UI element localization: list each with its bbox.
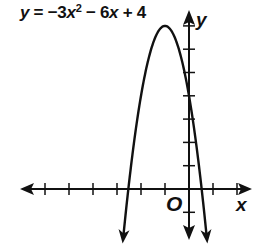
y-axis-label: y bbox=[196, 9, 207, 31]
equation-term3: + 4 bbox=[123, 3, 146, 22]
equation-term2-coef: − 6 bbox=[86, 3, 109, 22]
parabola-curve bbox=[123, 26, 206, 236]
equation-term2-var: x bbox=[109, 3, 118, 22]
equation-lhs: y bbox=[20, 3, 29, 22]
parabola-graph bbox=[0, 0, 255, 252]
equation-term1-var: x bbox=[66, 3, 75, 22]
origin-label: O bbox=[166, 192, 182, 216]
x-axis-label: x bbox=[236, 194, 247, 216]
equation-term1-exp: 2 bbox=[76, 2, 82, 14]
equation-term1-coef: −3 bbox=[48, 3, 67, 22]
equation-equals: = bbox=[34, 3, 44, 22]
equation-label: y = −3x2 − 6x + 4 bbox=[20, 2, 146, 23]
